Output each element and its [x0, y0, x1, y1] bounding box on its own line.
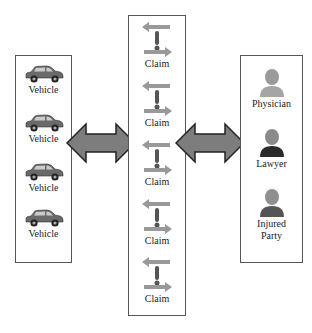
party-label: Lawyer	[241, 158, 302, 170]
double-arrow-icon	[66, 122, 136, 164]
vehicle-item: Vehicle	[16, 162, 71, 194]
claim-item: Claim	[129, 20, 185, 70]
claim-item: Claim	[129, 255, 185, 305]
person-icon	[257, 126, 287, 158]
claim-exchange-icon	[140, 197, 174, 235]
party-item-physician: Physician	[241, 66, 302, 110]
vehicle-label: Vehicle	[16, 228, 71, 240]
claim-exchange-icon	[140, 20, 174, 58]
parties-box: Physician Lawyer Injured Party	[240, 55, 303, 263]
vehicle-label: Vehicle	[16, 133, 71, 145]
claim-exchange-icon	[140, 79, 174, 117]
double-arrow-icon	[175, 122, 245, 164]
party-item-lawyer: Lawyer	[241, 126, 302, 170]
claim-exchange-icon	[140, 138, 174, 176]
claim-item: Claim	[129, 197, 185, 247]
party-label: Injured Party	[252, 218, 292, 242]
vehicles-box: Vehicle Vehicle Vehicle Vehicle	[15, 55, 72, 263]
claims-box: Claim Claim Claim Claim	[128, 15, 186, 316]
person-icon	[257, 66, 287, 98]
car-icon	[23, 113, 65, 133]
car-icon	[23, 162, 65, 182]
party-label: Physician	[241, 98, 302, 110]
vehicle-item: Vehicle	[16, 208, 71, 240]
car-icon	[23, 208, 65, 228]
vehicle-item: Vehicle	[16, 113, 71, 145]
claim-label: Claim	[129, 176, 185, 188]
vehicle-label: Vehicle	[16, 84, 71, 96]
claim-label: Claim	[129, 58, 185, 70]
person-icon	[257, 186, 287, 218]
vehicle-label: Vehicle	[16, 182, 71, 194]
claim-label: Claim	[129, 293, 185, 305]
car-icon	[23, 64, 65, 84]
vehicle-item: Vehicle	[16, 64, 71, 96]
claim-exchange-icon	[140, 255, 174, 293]
claim-label: Claim	[129, 235, 185, 247]
party-item-injured-party: Injured Party	[241, 186, 302, 242]
